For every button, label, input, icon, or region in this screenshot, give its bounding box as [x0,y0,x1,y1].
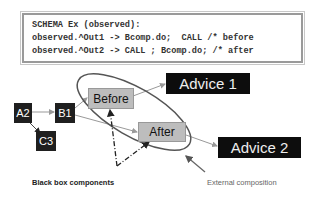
node-advice-2: Advice 2 [218,137,301,158]
node-a2: A2 [14,103,32,123]
node-b1: B1 [55,103,75,123]
diagram-connectors [0,0,316,197]
node-advice-1: Advice 1 [166,73,250,94]
node-c3: C3 [36,131,56,151]
label-external-composition: External composition [207,178,277,187]
node-after: After [138,122,186,142]
label-black-box-components: Black box components [32,178,114,187]
node-before: Before [88,88,134,109]
